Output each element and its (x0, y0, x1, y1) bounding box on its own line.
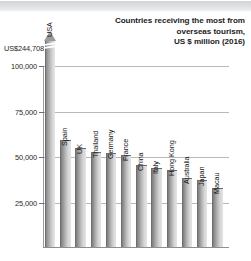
bar-australia (182, 178, 192, 247)
gridline-100000 (44, 66, 229, 67)
bar-spain (60, 140, 70, 247)
bar-label-italy: Italy (151, 161, 160, 174)
gridline-75000 (44, 112, 229, 113)
usa-value-annotation: US$244,708 (4, 44, 44, 53)
bar-label-thailand: Thailand (91, 131, 100, 158)
y-axis-label-50000: 50,000 (15, 153, 37, 162)
y-tick-25000 (39, 203, 44, 204)
bar-label-australia: Australia (182, 157, 191, 185)
bar-label-japan: Japan (197, 167, 206, 186)
bar-usa (45, 40, 55, 247)
bar-italy (151, 168, 161, 247)
bar-label-macau: Macau (212, 173, 221, 194)
bar-label-germany: Germany (106, 130, 115, 159)
y-tick-75000 (39, 112, 44, 113)
y-tick-100000 (39, 66, 44, 67)
x-axis-baseline (43, 247, 229, 248)
plot-area: 25,00050,00075,000100,000 USASpainUKThai… (43, 66, 229, 248)
bar-label-usa: USA (45, 22, 54, 37)
chart-title-line-1: Countries receiving the most from (93, 16, 245, 27)
bar-label-spain: Spain (60, 128, 69, 146)
top-banner-strip (0, 1, 251, 10)
chart-title-line-2: overseas tourism, (93, 27, 245, 38)
y-axis-label-100000: 100,000 (11, 62, 37, 71)
bar-label-hong-kong: Hong Kong (167, 140, 176, 176)
bar-uk (75, 148, 85, 247)
top-banner-shadow (0, 10, 251, 12)
y-tick-50000 (39, 157, 44, 158)
chart-title: Countries receiving the most from overse… (93, 16, 245, 48)
bar-germany (106, 153, 116, 247)
bar-japan (197, 180, 207, 247)
tourism-bar-chart: Countries receiving the most from overse… (0, 0, 251, 261)
bar-macau (212, 188, 222, 247)
y-axis-label-25000: 25,000 (15, 198, 37, 207)
bar-label-france: France (121, 139, 130, 161)
y-axis-label-75000: 75,000 (15, 107, 37, 116)
chart-title-line-3: US $ million (2016) (93, 37, 245, 48)
bar-france (121, 155, 131, 247)
bar-thailand (91, 152, 101, 247)
bar-china (136, 165, 146, 247)
bar-label-uk: UK (75, 144, 84, 154)
bar-label-china: China (136, 152, 145, 171)
bar-hong-kong (167, 170, 177, 247)
